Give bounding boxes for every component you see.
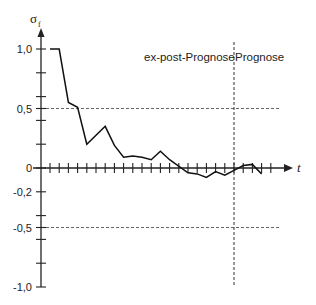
chart-canvas: 1,00,50-0,2-0,5-1,0 σ f t ex-post-Progno…	[0, 0, 316, 305]
x-axis-label: t	[297, 160, 301, 175]
y-tick-label: -0,5	[13, 222, 32, 234]
y-tick-label: 1,0	[17, 43, 32, 55]
axes	[33, 28, 293, 287]
y-axis-arrow-icon	[38, 28, 45, 37]
y-axis-label: σ	[30, 11, 37, 26]
y-tick-labels: 1,00,50-0,2-0,5-1,0	[13, 43, 32, 293]
y-axis-label-subscript: f	[38, 20, 41, 29]
y-tick-label: 0	[26, 162, 32, 174]
y-tick-label: 0,5	[17, 103, 32, 115]
annotation-prognose: Prognose	[235, 51, 284, 63]
series-line	[50, 49, 262, 178]
y-tick-label: -1,0	[13, 281, 32, 293]
x-axis-arrow-icon	[284, 164, 293, 172]
data-series	[50, 49, 262, 178]
y-tick-label: -0,2	[13, 186, 32, 198]
annotation-ex-post-prognose: ex-post-Prognose	[144, 51, 235, 63]
